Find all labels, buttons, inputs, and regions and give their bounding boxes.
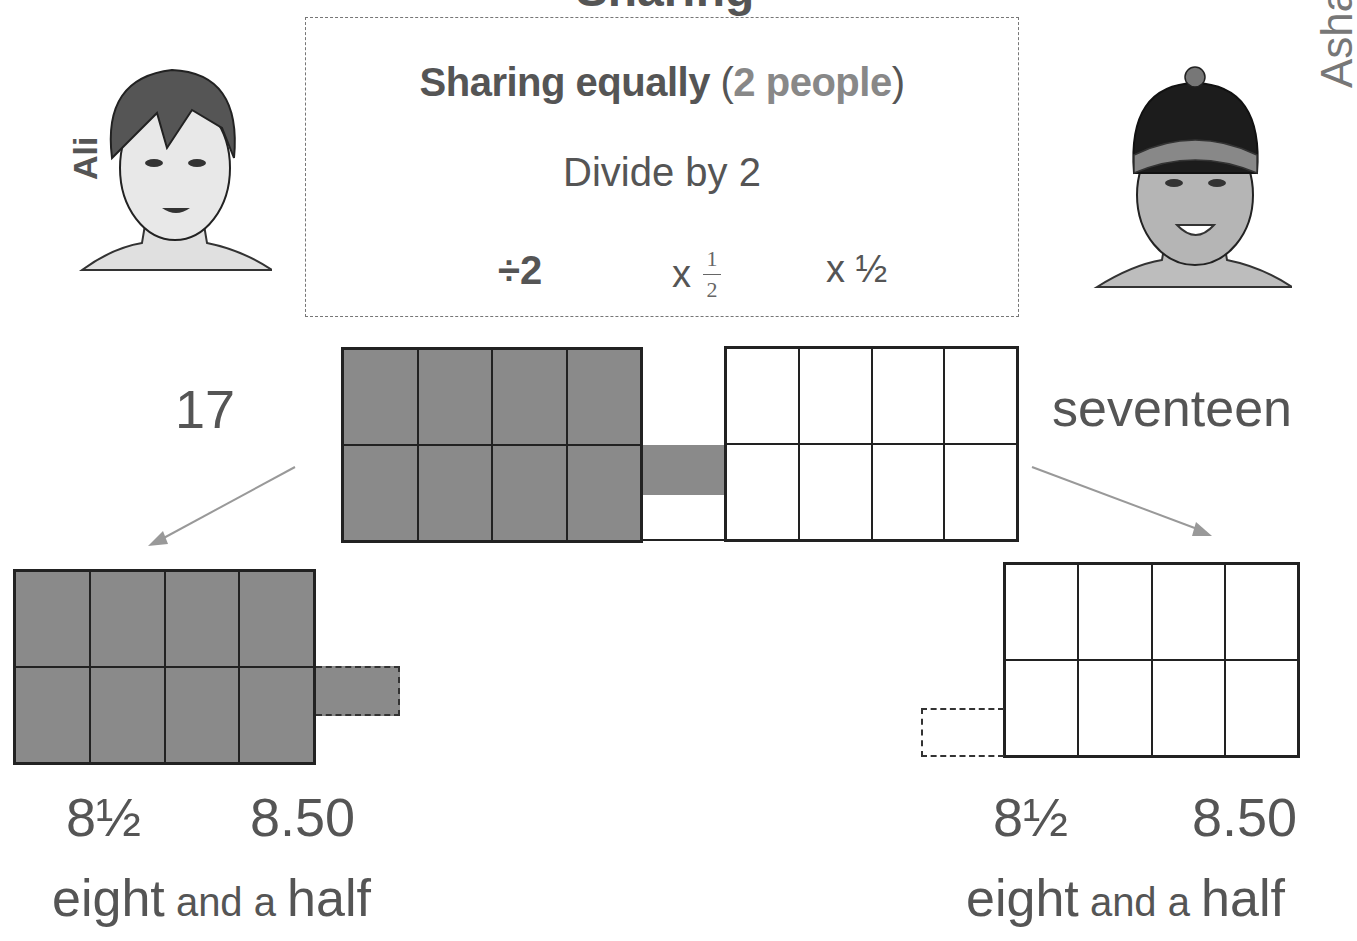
fraction-one-half: 1 2 — [703, 248, 721, 301]
half-cell-white — [643, 495, 726, 541]
ali-share-block — [13, 569, 316, 765]
unit-cell — [1078, 660, 1151, 756]
unit-cell — [872, 444, 945, 540]
page-title-clipped: Sharing — [0, 0, 1330, 17]
unit-cell — [15, 571, 90, 667]
op-divide: ÷2 — [498, 248, 542, 293]
unit-cell — [799, 348, 872, 444]
word-eight: eight — [966, 869, 1079, 927]
ali-name-label: Ali — [66, 137, 105, 180]
unit-cell — [1225, 564, 1298, 660]
word-eight: eight — [52, 869, 165, 927]
unit-cell — [872, 348, 945, 444]
unit-cell — [1005, 564, 1078, 660]
asha-half-piece — [921, 708, 1004, 757]
unit-cell — [343, 349, 418, 445]
asha-decimal: 8.50 — [1192, 786, 1297, 848]
unit-cell — [567, 349, 642, 445]
asha-share-block — [1003, 562, 1300, 758]
unit-cell — [1152, 564, 1225, 660]
fraction-numerator: 1 — [707, 248, 718, 270]
op-times-fraction: x 1 2 — [672, 248, 721, 301]
unit-cell — [418, 349, 493, 445]
asha-fraction: 8½ — [993, 786, 1068, 848]
unit-cell — [799, 444, 872, 540]
ali-fraction: 8½ — [66, 786, 141, 848]
asha-name-label: Asha — [1312, 0, 1357, 88]
op-times-half: x ½ — [826, 248, 887, 291]
unit-cell — [1005, 660, 1078, 756]
ali-words: eight and a half — [52, 868, 371, 928]
asha-portrait-icon — [1092, 55, 1292, 295]
unit-cell — [1225, 660, 1298, 756]
half-cell-shaded — [643, 445, 726, 495]
word-and-a: and a — [1079, 880, 1201, 924]
paren-open: ( — [721, 60, 734, 104]
info-subtitle: Divide by 2 — [306, 150, 1018, 195]
fraction-bar — [703, 274, 721, 275]
asha-words: eight and a half — [966, 868, 1285, 928]
info-title: Sharing equally (2 people) — [306, 60, 1018, 105]
shared-block-left — [341, 347, 643, 543]
unit-cell — [90, 571, 165, 667]
ali-half-piece — [316, 666, 400, 716]
fraction-denominator: 2 — [707, 279, 718, 301]
unit-cell — [239, 571, 314, 667]
unit-cell — [726, 348, 799, 444]
unit-cell — [567, 445, 642, 541]
word-half: half — [1201, 869, 1285, 927]
unit-cell — [15, 667, 90, 763]
shared-block-right — [724, 346, 1019, 542]
unit-cell — [343, 445, 418, 541]
total-word: seventeen — [1052, 378, 1292, 438]
word-half: half — [287, 869, 371, 927]
unit-cell — [726, 444, 799, 540]
unit-cell — [944, 348, 1017, 444]
paren-close: ) — [892, 60, 905, 104]
unit-cell — [1078, 564, 1151, 660]
unit-cell — [239, 667, 314, 763]
unit-cell — [165, 667, 240, 763]
people-count: 2 people — [733, 60, 891, 104]
unit-cell — [492, 349, 567, 445]
unit-cell — [492, 445, 567, 541]
unit-cell — [418, 445, 493, 541]
times-sign: x — [672, 253, 691, 296]
info-box: Sharing equally (2 people) Divide by 2 ÷… — [305, 17, 1019, 317]
unit-cell — [165, 571, 240, 667]
unit-cell — [944, 444, 1017, 540]
arrow-right-icon — [1032, 467, 1200, 530]
arrow-left-head-icon — [148, 531, 168, 546]
unit-cell — [90, 667, 165, 763]
total-numeral: 17 — [175, 378, 235, 440]
arrow-right-head-icon — [1192, 522, 1212, 536]
unit-cell — [1152, 660, 1225, 756]
info-title-bold: Sharing equally — [420, 60, 710, 104]
arrow-left-icon — [160, 467, 295, 540]
word-and-a: and a — [165, 880, 287, 924]
ali-decimal: 8.50 — [250, 786, 355, 848]
